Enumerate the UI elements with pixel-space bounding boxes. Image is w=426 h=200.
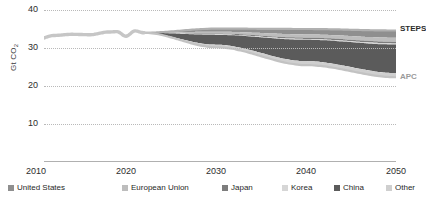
x-axis-line: [44, 161, 396, 162]
y-tick-label-30: 30: [16, 43, 38, 52]
legend-label: Japan: [231, 184, 253, 192]
gridline-10: [44, 124, 396, 126]
y-tick-label-10: 10: [16, 119, 38, 128]
historical-emissions-line: [44, 31, 144, 40]
legend-swatch-icon: [122, 185, 128, 191]
gridline-40: [44, 10, 396, 12]
legend-item-other[interactable]: Other: [386, 184, 415, 192]
legend-swatch-icon: [386, 185, 392, 191]
legend-label: Other: [395, 184, 415, 192]
legend-label: China: [343, 184, 364, 192]
y-tick-label-20: 20: [16, 81, 38, 90]
series-label-steps: STEPS: [400, 25, 426, 33]
y-axis-tick-labels: 40302010: [14, 0, 38, 162]
legend-item-japan[interactable]: Japan: [222, 184, 253, 192]
legend-item-china[interactable]: China: [334, 184, 364, 192]
legend-label: European Union: [131, 184, 189, 192]
legend-item-united-states[interactable]: United States: [8, 184, 65, 192]
legend-swatch-icon: [282, 185, 288, 191]
series-label-apc: APC: [400, 73, 417, 81]
x-tick-label-2020: 2020: [104, 167, 148, 176]
gridline-30: [44, 48, 396, 50]
legend-item-korea[interactable]: Korea: [282, 184, 312, 192]
chart-canvas: [44, 6, 396, 161]
y-tick-label-40: 40: [16, 5, 38, 14]
x-tick-label-2050: 2050: [374, 167, 418, 176]
chart-legend: United StatesEuropean UnionJapanKoreaChi…: [0, 184, 422, 198]
x-tick-label-2030: 2030: [194, 167, 238, 176]
legend-swatch-icon: [222, 185, 228, 191]
x-tick-label-2010: 2010: [14, 167, 58, 176]
legend-swatch-icon: [334, 185, 340, 191]
legend-item-european-union[interactable]: European Union: [122, 184, 189, 192]
gridline-20: [44, 86, 396, 88]
x-tick-label-2040: 2040: [284, 167, 328, 176]
legend-label: United States: [17, 184, 65, 192]
legend-label: Korea: [291, 184, 312, 192]
x-axis-tick-labels: 20102020203020402050: [0, 167, 422, 181]
plot-area: [44, 6, 396, 161]
legend-swatch-icon: [8, 185, 14, 191]
